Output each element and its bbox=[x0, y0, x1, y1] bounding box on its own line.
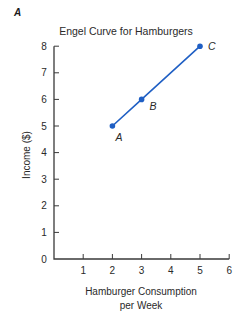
x-tick-label: 6 bbox=[226, 265, 232, 276]
engel-curve-chart: A Engel Curve for Hamburgers 012345678 1… bbox=[0, 0, 248, 325]
data-series: ABC bbox=[110, 40, 216, 143]
y-axis-ticks: 012345678 bbox=[41, 41, 59, 265]
y-tick-label: 4 bbox=[41, 147, 47, 158]
point-label-b: B bbox=[150, 100, 157, 112]
x-tick-label: 1 bbox=[80, 265, 86, 276]
engel-curve-line bbox=[112, 46, 200, 126]
x-axis-label-line1: Hamburger Consumption bbox=[85, 286, 197, 297]
y-tick-label: 7 bbox=[41, 67, 47, 78]
point-label-c: C bbox=[208, 40, 216, 52]
x-tick-label: 5 bbox=[197, 265, 203, 276]
x-tick-label: 4 bbox=[168, 265, 174, 276]
x-tick-label: 2 bbox=[110, 265, 116, 276]
axes bbox=[54, 46, 229, 259]
y-tick-label: 6 bbox=[41, 94, 47, 105]
y-tick-label: 2 bbox=[41, 200, 47, 211]
data-point-b bbox=[139, 97, 145, 103]
point-label-a: A bbox=[114, 131, 122, 143]
x-axis-ticks: 123456 bbox=[80, 254, 232, 276]
y-tick-label: 8 bbox=[41, 41, 47, 52]
y-tick-label: 5 bbox=[41, 121, 47, 132]
y-tick-label: 3 bbox=[41, 174, 47, 185]
panel-label: A bbox=[13, 7, 21, 18]
y-tick-label: 0 bbox=[41, 254, 47, 265]
y-axis-label: Income ($) bbox=[21, 131, 32, 179]
chart-title: Engel Curve for Hamburgers bbox=[59, 25, 193, 37]
axis-lines bbox=[54, 46, 229, 259]
x-axis-label-line2: per Week bbox=[120, 300, 164, 311]
x-tick-label: 3 bbox=[139, 265, 145, 276]
data-point-c bbox=[197, 43, 203, 49]
data-point-a bbox=[110, 123, 116, 129]
y-tick-label: 1 bbox=[41, 227, 47, 238]
